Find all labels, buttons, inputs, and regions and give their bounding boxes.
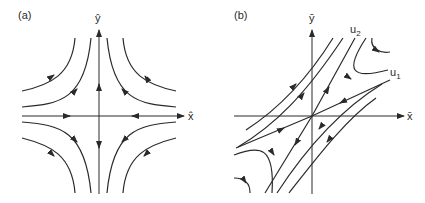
- u2-label: u2: [350, 23, 361, 38]
- y-axis-label: ȳ: [309, 12, 315, 24]
- trajectory: [234, 150, 272, 193]
- x-axis-label: x̂: [188, 110, 194, 122]
- trajectory: [234, 178, 250, 193]
- panel-a: (a) x̂ ŷ: [18, 9, 194, 194]
- arrow-icon: [244, 180, 246, 183]
- trajectory: [123, 38, 176, 91]
- arrow-icon: [51, 153, 54, 156]
- trajectory: [107, 38, 176, 107]
- arrow-icon: [272, 152, 274, 155]
- trajectory: [123, 138, 176, 193]
- trajectory: [354, 38, 388, 74]
- arrow-icon: [51, 75, 54, 77]
- panel-a-label: (a): [18, 9, 31, 21]
- arrow-icon: [144, 153, 147, 156]
- trajectory-stub: [147, 77, 150, 80]
- panel-b-label: (b): [234, 9, 247, 21]
- arrow-icon: [348, 77, 351, 79]
- phase-portrait-figure: (a) x̂ ŷ (b): [0, 0, 425, 203]
- trajectory: [289, 98, 376, 193]
- trajectory: [22, 122, 91, 193]
- arrow-icon: [319, 124, 323, 129]
- panel-b: (b) x̄ ȳ u2 u1: [234, 9, 413, 194]
- y-axis-label: ŷ: [95, 12, 101, 24]
- trajectory: [22, 38, 91, 107]
- x-axis-label: x̄: [407, 110, 413, 122]
- trajectory: [22, 38, 75, 91]
- trajectory: [107, 122, 176, 193]
- arrow-icon: [145, 76, 147, 79]
- u1-label: u1: [390, 66, 401, 81]
- trajectory: [372, 38, 390, 52]
- trajectory: [22, 138, 75, 193]
